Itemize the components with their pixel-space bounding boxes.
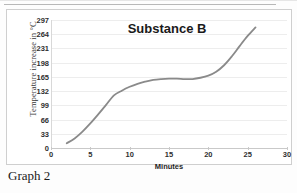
y-tick-label: 198: [36, 58, 49, 67]
data-line-substance-b: [51, 20, 287, 148]
x-tick-label: 25: [243, 150, 251, 159]
x-tick-mark: [208, 147, 209, 150]
y-tick-label: 99: [41, 101, 49, 110]
x-tick-mark: [287, 147, 288, 150]
y-tick-label: 231: [36, 44, 49, 53]
graph-caption: Graph 2: [8, 168, 50, 184]
chart-frame: Substance B Temperature increase in °C 0…: [6, 9, 292, 165]
x-tick-mark: [248, 147, 249, 150]
y-tick-label: 66: [41, 115, 49, 124]
x-tick-label: 20: [204, 150, 212, 159]
x-axis-title: Minutes: [51, 162, 287, 171]
y-tick-label: 132: [36, 87, 49, 96]
x-tick-label: 30: [283, 150, 291, 159]
x-tick-label: 10: [125, 150, 133, 159]
x-tick-mark: [90, 147, 91, 150]
y-tick-label: 33: [41, 129, 49, 138]
x-tick-label: 0: [49, 150, 53, 159]
x-tick-mark: [130, 147, 131, 150]
y-tick-label: 165: [36, 72, 49, 81]
scan-edge-line-top: [0, 0, 297, 1]
x-axis-tick-labels: 051015202530: [51, 150, 287, 162]
graph-page: Substance B Temperature increase in °C 0…: [0, 0, 297, 193]
x-tick-mark: [51, 147, 52, 150]
plot-area: [51, 20, 287, 148]
x-tick-label: 5: [88, 150, 92, 159]
y-tick-label: 264: [36, 30, 49, 39]
x-tick-label: 15: [165, 150, 173, 159]
y-axis-tick-labels: 0336699132165198231264297: [25, 20, 49, 148]
x-tick-mark: [169, 147, 170, 150]
y-tick-label: 297: [36, 16, 49, 25]
scan-cutoff-rule: [4, 4, 276, 5]
